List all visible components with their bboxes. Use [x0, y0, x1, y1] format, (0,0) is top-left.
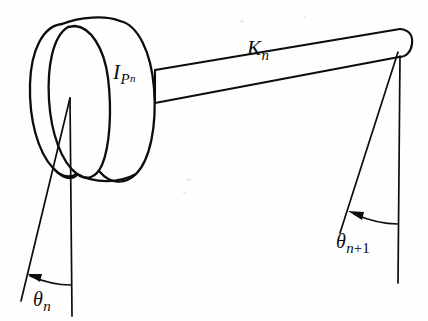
arrow-head-right	[348, 211, 364, 220]
disk-front-face	[100, 21, 155, 182]
disk-body	[30, 17, 155, 181]
rotated-line-left	[21, 98, 70, 301]
label-thn1-sub-extra: +1	[354, 240, 370, 256]
reference-line-right	[398, 56, 400, 283]
label-torsional-stiffness: Kn	[247, 38, 269, 63]
label-angle-theta-n: θn	[33, 289, 51, 314]
disk-top-edge	[62, 17, 120, 24]
label-angle-theta-n-plus-1: θn+1	[336, 231, 370, 256]
label-kn-base: K	[247, 36, 261, 60]
label-ipn-subsub: n	[130, 72, 136, 84]
arrow-head-left	[27, 274, 42, 282]
torsional-shaft-figure: IPn Kn θn θn+1	[0, 0, 428, 321]
rotated-line-right	[340, 52, 398, 233]
label-thn1-base: θ	[336, 230, 346, 252]
label-ipn-sub: P	[121, 71, 130, 87]
label-kn-sub: n	[262, 47, 270, 63]
label-thn1-sub: n	[346, 240, 354, 256]
shaft-body	[155, 29, 412, 103]
label-thn-base: θ	[33, 288, 43, 310]
diagram-canvas	[0, 0, 428, 321]
disk-inner-rim	[49, 26, 110, 178]
reference-line-left	[70, 98, 72, 316]
label-polar-moment-of-inertia: IPn	[113, 62, 135, 87]
shaft-right-endcap	[399, 29, 412, 57]
label-ipn-base: I	[113, 60, 120, 84]
angle-marker-left	[21, 98, 72, 316]
label-thn-sub: n	[43, 298, 51, 314]
